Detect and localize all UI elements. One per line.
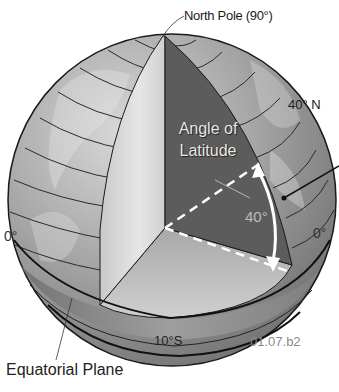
angle-of-latitude-title: Angle of Latitude: [148, 118, 268, 162]
figure-code-label: 01.07.b2: [250, 334, 301, 349]
equatorial-plane-label: Equatorial Plane: [6, 361, 123, 379]
latitude-10s-label: 10°S: [154, 333, 182, 348]
latitude-diagram: North Pole (90°) 40° N 0° 0° Angle of La…: [0, 0, 339, 392]
equator-right-label: 0°: [313, 225, 326, 241]
equator-left-label: 0°: [4, 228, 17, 244]
angle-value-label: 40°: [245, 208, 268, 225]
location-dot: [282, 196, 287, 201]
north-pole-label: North Pole (90°): [184, 8, 273, 23]
angle-title-line1: Angle of: [148, 118, 268, 140]
angle-title-line2: Latitude: [148, 140, 268, 162]
north-pole-pointer: [163, 16, 184, 36]
latitude-40n-label: 40° N: [288, 97, 321, 112]
